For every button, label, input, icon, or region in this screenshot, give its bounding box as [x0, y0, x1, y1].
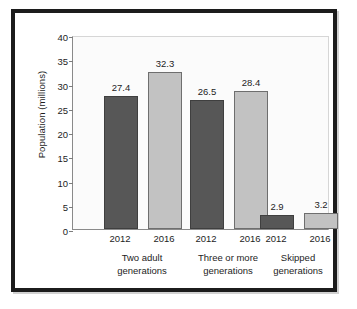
y-axis-tick-label: 25 [57, 104, 68, 115]
bar-chart: Population (millions) 0510152025303540 2… [15, 13, 333, 288]
bar-column[interactable]: 27.4 [104, 35, 138, 229]
x-axis-year-label: 2016 [303, 233, 337, 244]
y-axis-tickmark [69, 231, 73, 232]
plot-area: 0510152025303540 27.432.326.528.42.93.2 [72, 36, 329, 230]
category-label-line: generations [252, 265, 344, 278]
y-axis-tick-label: 30 [57, 80, 68, 91]
y-axis-tick-label: 5 [63, 201, 68, 212]
y-axis-title: Population (millions) [36, 40, 47, 190]
bar-value-label: 26.5 [198, 86, 217, 97]
bar-column[interactable]: 3.2 [304, 35, 338, 229]
bar-column[interactable]: 32.3 [148, 35, 182, 229]
bar-value-label: 3.2 [314, 199, 327, 210]
bar-value-label: 27.4 [112, 82, 131, 93]
y-axis-tick-label: 10 [57, 177, 68, 188]
y-axis-tick-label: 40 [57, 32, 68, 43]
bar-2012-3[interactable] [260, 215, 294, 229]
y-axis-tick-label: 0 [63, 226, 68, 237]
figure-frame: Population (millions) 0510152025303540 2… [11, 9, 337, 292]
bar-value-label: 2.9 [270, 201, 283, 212]
bar-value-label: 32.3 [156, 58, 175, 69]
category-label-line: generations [96, 265, 188, 278]
bar-column[interactable]: 26.5 [190, 35, 224, 229]
x-axis-category-labels: Two adultgenerationsThree or moregenerat… [72, 252, 329, 286]
bar-2016-3[interactable] [304, 213, 338, 229]
y-axis-tick-label: 15 [57, 153, 68, 164]
y-axis-tick-label: 35 [57, 56, 68, 67]
y-axis-tick-label: 20 [57, 129, 68, 140]
x-axis-year-label: 2012 [189, 233, 223, 244]
bar-2012-2[interactable] [190, 100, 224, 229]
bars-layer: 27.432.326.528.42.93.2 [73, 37, 328, 229]
bar-value-label: 28.4 [242, 77, 261, 88]
x-axis-category-label: Skippedgenerations [252, 252, 344, 277]
bar-2016-1[interactable] [148, 72, 182, 229]
category-label-line: Skipped [252, 252, 344, 265]
bar-column[interactable]: 2.9 [260, 35, 294, 229]
x-axis-year-label: 2016 [147, 233, 181, 244]
x-axis-category-label: Two adultgenerations [96, 252, 188, 277]
x-axis-series-labels: 201220162012201620122016 [72, 233, 329, 247]
x-axis-year-label: 2012 [259, 233, 293, 244]
x-axis-year-label: 2012 [103, 233, 137, 244]
category-label-line: Two adult [96, 252, 188, 265]
bar-2012-1[interactable] [104, 96, 138, 229]
